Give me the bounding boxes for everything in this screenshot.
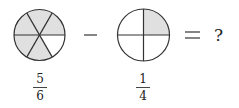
- denominator: 4: [133, 90, 153, 102]
- numerator: 5: [30, 73, 50, 85]
- unknown-result: ?: [214, 25, 223, 45]
- equals-sign: [185, 32, 200, 38]
- circle-five-sixths: [14, 10, 65, 61]
- fraction-left: 5 6: [30, 73, 50, 102]
- circle-one-quarter: [118, 9, 170, 61]
- fraction-right: 1 4: [133, 73, 153, 102]
- fraction-bar: [136, 87, 150, 88]
- fraction-bar: [33, 87, 47, 88]
- denominator: 6: [30, 90, 50, 102]
- numerator: 1: [133, 73, 153, 85]
